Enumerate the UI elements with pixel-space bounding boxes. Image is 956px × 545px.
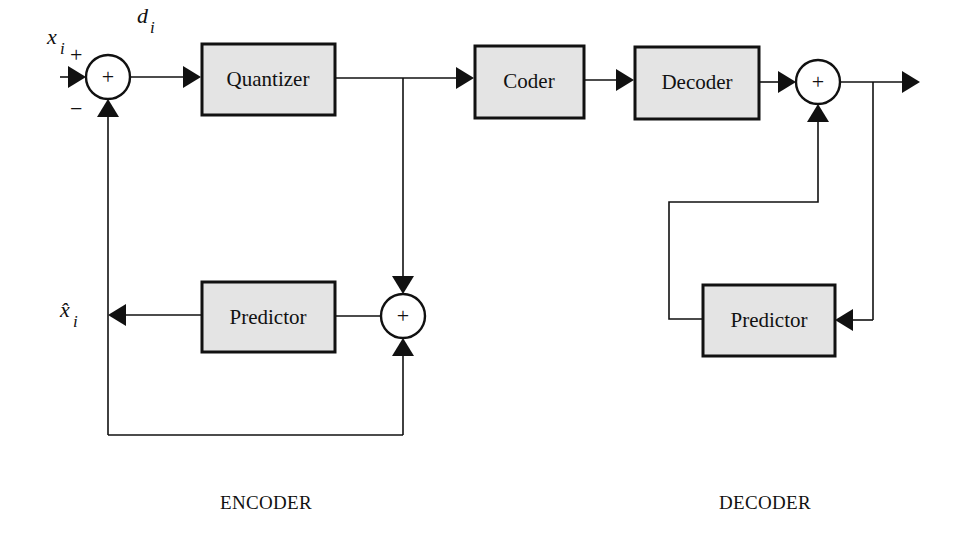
sum2-plus-icon: + xyxy=(397,303,409,328)
sum2-top-arrow-icon xyxy=(392,276,414,294)
coder-block: Coder xyxy=(475,46,584,118)
difference-symbol-d: d xyxy=(137,3,149,28)
decoder-label: Decoder xyxy=(661,70,732,94)
coder-label: Coder xyxy=(503,69,554,93)
encoder-predictor-label: Predictor xyxy=(230,305,307,329)
input-arrow-icon xyxy=(68,66,86,88)
quantizer-label: Quantizer xyxy=(227,67,310,91)
quantizer-input-arrow-icon xyxy=(183,66,201,88)
prediction-subscript-i: i xyxy=(73,312,78,331)
feedback-summing-junction: + xyxy=(381,294,425,338)
decoder-section-label: DECODER xyxy=(719,492,811,513)
quantizer-block: Quantizer xyxy=(202,44,335,115)
output-summing-junction: + xyxy=(796,60,840,104)
sum2-bottom-arrow-icon xyxy=(392,338,414,356)
encoder-section: x i + − + d i Quantizer + xyxy=(46,3,458,513)
input-summing-junction: + xyxy=(86,55,130,99)
encoder-section-label: ENCODER xyxy=(220,492,312,513)
prediction-arrow-icon xyxy=(108,304,126,326)
plus-sign-label: + xyxy=(70,42,82,67)
minus-sign-label: − xyxy=(70,96,82,121)
difference-subscript-i: i xyxy=(150,18,155,37)
decoder-predictor-block: Predictor xyxy=(703,285,835,356)
coder-input-arrow-icon xyxy=(456,67,474,89)
input-symbol-x: x xyxy=(46,24,57,49)
sum1-plus-icon: + xyxy=(102,64,114,89)
decoder-section: + Predictor DECODER xyxy=(669,60,920,513)
sum3-input-arrow-icon xyxy=(778,71,796,93)
encoder-predictor-block: Predictor xyxy=(202,282,335,352)
decoder-predictor-label: Predictor xyxy=(731,308,808,332)
prediction-symbol-xhat: x̂ xyxy=(59,297,70,322)
sum1-bottom-arrow-icon xyxy=(97,99,119,117)
decoder-predictor-input-arrow-icon xyxy=(835,309,853,331)
decoder-block: Decoder xyxy=(635,47,759,119)
sum3-plus-icon: + xyxy=(812,69,824,94)
channel-section: Coder Decoder xyxy=(456,46,759,119)
dpcm-block-diagram: x i + − + d i Quantizer + xyxy=(0,0,956,545)
sum3-bottom-arrow-icon xyxy=(807,104,829,122)
output-arrow-icon xyxy=(902,71,920,93)
input-subscript-i: i xyxy=(60,39,65,58)
decoder-input-arrow-icon xyxy=(616,69,634,91)
